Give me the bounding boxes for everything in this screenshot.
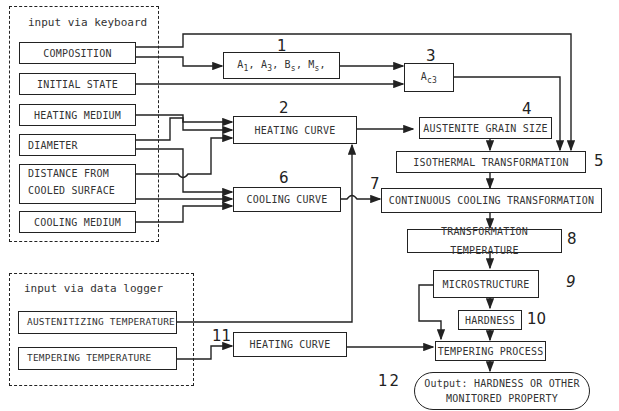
data-logger-group-title: input via data logger [24, 282, 163, 295]
block-7-number: 7 [370, 175, 380, 193]
block-continuous-cooling-transformation[interactable]: CONTINUOUS COOLING TRANSFORMATION [381, 188, 602, 213]
block-transformation-temperature[interactable]: TRANSFORMATION TEMPERATURE [407, 229, 562, 253]
block-microstructure[interactable]: MICROSTRUCTURE [433, 270, 539, 298]
heating-medium-label: HEATING MEDIUM [34, 106, 121, 125]
block-isothermal-transformation[interactable]: ISOTHERMAL TRANSFORMATION [396, 151, 586, 173]
block-critical-temperatures[interactable]: A1, A3, Bs, Ms, [223, 52, 340, 79]
heating-curve-tempering-label: HEATING CURVE [250, 335, 331, 354]
cct-label: CONTINUOUS COOLING TRANSFORMATION [389, 191, 594, 210]
keyboard-group-title: input via keyboard [28, 16, 147, 29]
output-terminal[interactable]: Output: HARDNESS OR OTHER MONITORED PROP… [414, 372, 590, 410]
input-diameter[interactable]: DIAMETER [19, 134, 136, 156]
input-tempering-temperature[interactable]: TEMPERING TEMPERATURE [18, 347, 177, 370]
tempering-process-label: TEMPERING PROCESS [438, 342, 544, 361]
input-heating-medium[interactable]: HEATING MEDIUM [19, 104, 136, 126]
ac3-label: Ac3 [421, 67, 437, 88]
composition-label: COMPOSITION [43, 44, 111, 63]
block-2-number: 2 [279, 99, 289, 117]
cooling-curve-label: COOLING CURVE [247, 190, 328, 209]
microstructure-label: MICROSTRUCTURE [442, 275, 529, 294]
block-heating-curve[interactable]: HEATING CURVE [233, 116, 357, 144]
distance-label-line2: COOLED SURFACE [28, 182, 115, 199]
block-6-number: 6 [279, 169, 289, 187]
austenite-grain-size-label: AUSTENITE GRAIN SIZE [423, 119, 547, 138]
block-11-number: 11 [212, 327, 231, 345]
block-tempering-process[interactable]: TEMPERING PROCESS [435, 341, 546, 361]
isothermal-transformation-label: ISOTHERMAL TRANSFORMATION [413, 153, 569, 172]
transformation-temperature-label: TRANSFORMATION TEMPERATURE [408, 222, 561, 260]
block-8-number: 8 [567, 230, 577, 248]
tempering-temperature-label: TEMPERING TEMPERATURE [27, 349, 151, 367]
input-distance-from-cooled-surface[interactable]: DISTANCE FROM COOLED SURFACE [19, 164, 136, 204]
block-heating-curve-tempering[interactable]: HEATING CURVE [233, 332, 347, 357]
input-initial-state[interactable]: INITIAL STATE [19, 73, 136, 95]
block-hardness[interactable]: HARDNESS [458, 310, 522, 330]
block-10-number: 10 [527, 310, 546, 328]
block-5-number: 5 [594, 152, 604, 170]
block-12-number: 12 [378, 372, 401, 390]
distance-label-line1: DISTANCE FROM [28, 165, 109, 182]
block-austenite-grain-size[interactable]: AUSTENITE GRAIN SIZE [419, 117, 552, 139]
hardness-label: HARDNESS [465, 311, 515, 330]
diameter-label: DIAMETER [28, 136, 78, 155]
block-4-number: 4 [522, 100, 532, 118]
input-composition[interactable]: COMPOSITION [19, 42, 136, 64]
austenitizing-temperature-label: AUSTENITIZING TEMPERATURE [27, 313, 175, 331]
input-austenitizing-temperature[interactable]: AUSTENITIZING TEMPERATURE [18, 311, 177, 334]
output-line2: MONITORED PROPERTY [446, 391, 558, 407]
initial-state-label: INITIAL STATE [37, 75, 118, 94]
block-9-number: 9 [566, 273, 576, 291]
block-cooling-curve[interactable]: COOLING CURVE [233, 187, 341, 212]
cooling-medium-label: COOLING MEDIUM [34, 213, 121, 232]
critical-temperatures-label: A1, A3, Bs, Ms, [237, 55, 326, 76]
output-line1: Output: HARDNESS OR OTHER [424, 376, 580, 392]
heating-curve-label: HEATING CURVE [255, 121, 336, 140]
input-cooling-medium[interactable]: COOLING MEDIUM [19, 211, 136, 233]
block-ac3[interactable]: Ac3 [404, 63, 454, 92]
